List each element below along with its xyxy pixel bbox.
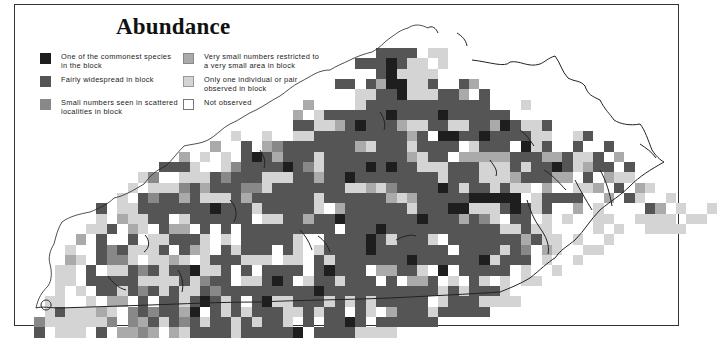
legend-item-scattered: Small numbers seen in scattered localiti… [40, 98, 179, 116]
legend-label-scattered: Small numbers seen in scattered localiti… [61, 98, 179, 116]
legend-label-one-individual: Only one individual or pair observed in … [204, 75, 322, 93]
legend-item-not-observed: Not observed [183, 98, 322, 110]
legend-swatch-not-observed [183, 99, 194, 110]
legend-label-not-observed: Not observed [204, 98, 322, 107]
ohio-river-border [428, 27, 555, 65]
legend-label-widespread: Fairly widespread in block [61, 75, 179, 84]
legend-label-commonest: One of the commonest species in the bloc… [61, 52, 179, 70]
legend-item-widespread: Fairly widespread in block [40, 75, 179, 87]
legend-swatch-commonest [40, 53, 51, 64]
legend-swatch-widespread [40, 76, 51, 87]
legend-title: Abundance [116, 14, 230, 40]
legend-swatch-scattered [40, 99, 51, 110]
legend-label-very-small: Very small numbers restricted to a very … [204, 52, 322, 70]
legend-item-commonest: One of the commonest species in the bloc… [40, 52, 179, 70]
grid-block [707, 203, 717, 213]
legend-item-very-small: Very small numbers restricted to a very … [183, 52, 322, 70]
legend-swatch-very-small [183, 53, 194, 64]
grid-block [697, 214, 707, 224]
legend-item-one-individual: Only one individual or pair observed in … [183, 75, 322, 93]
legend-swatch-one-individual [183, 76, 194, 87]
